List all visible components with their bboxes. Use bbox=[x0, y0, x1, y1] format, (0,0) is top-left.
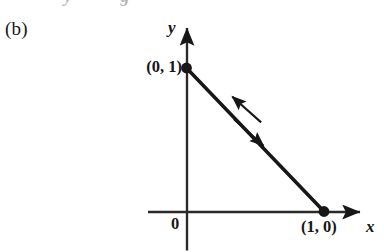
panel-label: (b) bbox=[5, 19, 28, 38]
point-label-1-0: (1, 0) bbox=[301, 219, 337, 236]
y-axis-label: y bbox=[168, 19, 176, 36]
figure-panel-b: y g (b) (0, 1) 0 (1, 0) y x bbox=[0, 0, 384, 252]
point-label-0-1: (0, 1) bbox=[112, 59, 182, 76]
origin-label: 0 bbox=[171, 216, 179, 233]
endpoint-marker-0-1 bbox=[181, 63, 192, 74]
x-axis-label: x bbox=[366, 218, 375, 235]
endpoint-marker-1-0 bbox=[319, 206, 330, 217]
figure-graphic bbox=[0, 0, 384, 252]
